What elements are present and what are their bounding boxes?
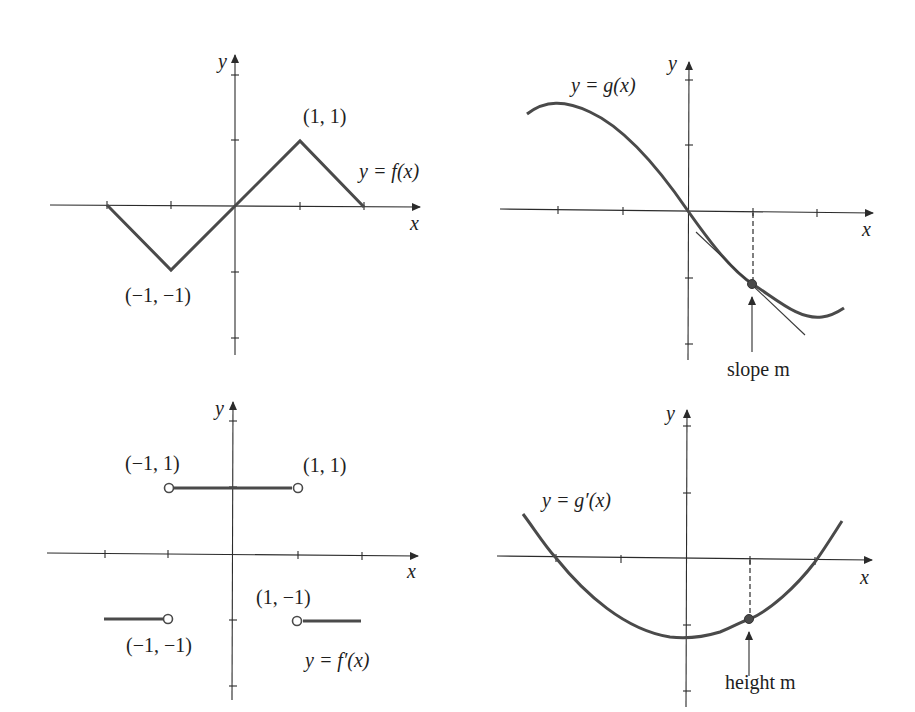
- curve-label: y = g′(x): [540, 489, 611, 512]
- slope-annotation: slope m: [727, 358, 790, 381]
- point-label: (1, 1): [303, 454, 346, 477]
- open-circle: [293, 617, 302, 626]
- panel-f: y x (1, 1) (−1, −1) y = f(x): [50, 50, 420, 355]
- y-axis-label: y: [216, 50, 227, 73]
- y-axis-label: y: [664, 402, 675, 425]
- tangent-point: [748, 280, 757, 289]
- y-axis: [232, 402, 233, 700]
- height-point: [745, 615, 754, 624]
- x-axis-label: x: [861, 218, 871, 240]
- x-axis-label: x: [409, 212, 419, 234]
- x-axis-label: x: [859, 566, 869, 588]
- open-circle: [294, 484, 303, 493]
- panel-f-prime: y x (−1, 1) (1, 1) (1, −1) (−1, −1) y = …: [47, 397, 418, 700]
- x-axis-label: x: [406, 560, 416, 582]
- panel-g-prime: y x y = g′(x) height m: [497, 402, 872, 707]
- figure-canvas: y x (1, 1) (−1, −1) y = f(x) y x y = g(x…: [0, 0, 915, 712]
- y-axis-label: y: [666, 52, 677, 75]
- peak-label: (1, 1): [303, 105, 346, 128]
- y-axis-label: y: [213, 397, 224, 420]
- point-label: (−1, 1): [125, 452, 180, 475]
- point-label: (1, −1): [256, 586, 311, 609]
- trough-label: (−1, −1): [125, 284, 191, 307]
- curve-label: y = g(x): [569, 74, 636, 97]
- open-circle: [164, 615, 173, 624]
- height-annotation: height m: [725, 671, 796, 694]
- curve-label: y = f(x): [357, 160, 419, 183]
- y-axis: [686, 410, 687, 707]
- open-circle: [165, 484, 174, 493]
- panel-g: y x y = g(x) slope m: [500, 52, 873, 381]
- point-label: (−1, −1): [126, 634, 192, 657]
- g-prime-graph: [523, 514, 842, 638]
- curve-label: y = f′(x): [303, 649, 370, 672]
